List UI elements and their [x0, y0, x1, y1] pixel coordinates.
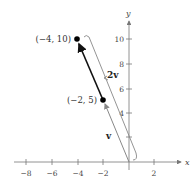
x-tick-label: −6	[46, 169, 57, 178]
point-label-tip-2v: (−4, 10)	[36, 34, 71, 44]
y-tick-label: 6	[119, 85, 124, 94]
x-tick-label: −2	[97, 169, 108, 178]
x-tick-label: −4	[72, 169, 83, 178]
x-tick-label: −8	[20, 169, 31, 178]
y-axis-label: y	[125, 9, 131, 18]
x-axis: −8 −6 −4 −2 2 x	[14, 158, 190, 178]
point-label-tip-v: (−2, 5)	[67, 95, 97, 105]
x-tick-label: 2	[152, 169, 157, 178]
x-axis-label: x	[185, 158, 190, 167]
vector-diagram: −8 −6 −4 −2 2 x 4 6 8 10 y (−4, 10) (−2,…	[0, 0, 193, 186]
vector-label-v: v	[105, 131, 112, 141]
point-tip-2v	[74, 36, 80, 42]
point-tip-v	[100, 97, 106, 103]
y-tick-label: 10	[114, 35, 124, 44]
vector-label-2v: 2v	[107, 70, 119, 80]
y-tick-label: 8	[119, 60, 124, 69]
y-axis: 4 6 8 10 y	[114, 9, 132, 170]
vector-2v	[79, 44, 103, 100]
